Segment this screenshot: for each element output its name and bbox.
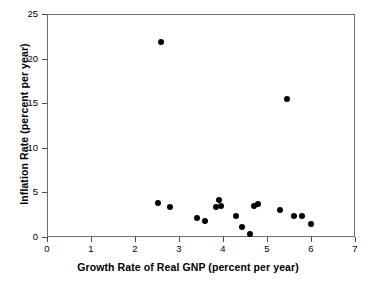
plot-area <box>47 14 355 237</box>
x-tick-label: 5 <box>257 243 277 254</box>
data-point <box>291 213 297 219</box>
y-tick-mark <box>42 14 47 15</box>
x-tick-mark <box>223 237 224 242</box>
x-tick-label: 6 <box>301 243 321 254</box>
x-tick-mark <box>355 237 356 242</box>
data-point <box>167 204 173 210</box>
x-tick-mark <box>135 237 136 242</box>
x-tick-mark <box>47 237 48 242</box>
data-point <box>284 96 290 102</box>
x-tick-label: 3 <box>169 243 189 254</box>
x-tick-label: 2 <box>125 243 145 254</box>
y-tick-mark <box>42 103 47 104</box>
y-tick-label: 25 <box>0 8 38 19</box>
y-tick-label: 20 <box>0 53 38 64</box>
x-tick-mark <box>311 237 312 242</box>
x-tick-mark <box>179 237 180 242</box>
y-tick-mark <box>42 192 47 193</box>
y-tick-mark <box>42 148 47 149</box>
data-point <box>194 215 200 221</box>
y-axis-title: Inflation Rate (percent per year) <box>18 14 30 234</box>
x-tick-label: 7 <box>345 243 365 254</box>
data-point <box>218 203 224 209</box>
x-tick-label: 4 <box>213 243 233 254</box>
data-point <box>308 221 314 227</box>
x-tick-mark <box>91 237 92 242</box>
x-tick-label: 1 <box>81 243 101 254</box>
y-tick-label: 0 <box>0 231 38 242</box>
y-tick-label: 5 <box>0 186 38 197</box>
x-axis-title: Growth Rate of Real GNP (percent per yea… <box>0 261 376 273</box>
data-point <box>155 200 161 206</box>
x-tick-label: 0 <box>37 243 57 254</box>
y-tick-mark <box>42 59 47 60</box>
scatter-chart: Inflation Rate (percent per year) 051015… <box>0 0 376 281</box>
x-tick-mark <box>267 237 268 242</box>
y-tick-label: 15 <box>0 97 38 108</box>
y-tick-label: 10 <box>0 142 38 153</box>
